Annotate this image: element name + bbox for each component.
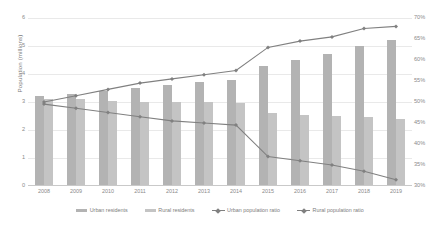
line-marker[interactable]: Urban population ratio 2011: 54.5%	[138, 81, 142, 85]
x-tick-label: 2009	[60, 189, 92, 194]
legend-item[interactable]: Urban population ratio	[212, 208, 281, 213]
y-tick-label-right: 65%	[414, 36, 436, 42]
chart-container: Population (millions) 0123456 30%35%40%4…	[0, 0, 440, 232]
x-tick-label: 2008	[28, 189, 60, 194]
x-tick-label: 2013	[188, 189, 220, 194]
y-tick-label-left: 2	[14, 127, 25, 133]
legend-item[interactable]: Rural population ratio	[297, 208, 364, 213]
x-tick-label: 2010	[92, 189, 124, 194]
line-marker[interactable]: Urban population ratio 2013: 56.5%	[202, 73, 206, 77]
line-series-group: Urban population ratio 2008: 50%Urban po…	[28, 18, 412, 186]
line-marker[interactable]: Rural population ratio 2011: 46.5%	[138, 115, 142, 119]
y-tick-label-left: 0	[14, 183, 25, 189]
line-marker[interactable]: Rural population ratio 2008: 49.5%	[42, 102, 46, 106]
legend-swatch-line-icon	[212, 208, 225, 213]
chart-legend: Urban residentsRural residentsUrban popu…	[0, 208, 440, 213]
line-urban-population-ratio	[44, 26, 396, 102]
y-tick-label-right: 45%	[414, 120, 436, 126]
line-marker[interactable]: Urban population ratio 2019: 68%	[394, 24, 398, 28]
y-tick-label-right: 70%	[414, 15, 436, 21]
x-tick-label: 2015	[252, 189, 284, 194]
line-marker[interactable]: Rural population ratio 2017: 35%	[330, 163, 334, 167]
x-axis-line	[28, 185, 412, 186]
line-marker[interactable]: Rural population ratio 2019: 31.5%	[394, 178, 398, 182]
legend-label: Rural population ratio	[313, 208, 364, 213]
y-tick-label-right: 40%	[414, 141, 436, 147]
line-marker[interactable]: Urban population ratio 2012: 55.5%	[170, 77, 174, 81]
line-marker[interactable]: Rural population ratio 2018: 33.5%	[362, 169, 366, 173]
y-tick-label-left: 1	[14, 155, 25, 161]
x-tick-label: 2019	[380, 189, 412, 194]
x-tick-label: 2014	[220, 189, 252, 194]
line-marker[interactable]: Rural population ratio 2010: 47.5%	[106, 111, 110, 115]
x-tick-label: 2012	[156, 189, 188, 194]
plot-area: 0123456 30%35%40%45%50%55%60%65%70% Urba…	[28, 18, 412, 186]
x-tick-label: 2016	[284, 189, 316, 194]
y-tick-label-right: 30%	[414, 183, 436, 189]
line-marker[interactable]: Urban population ratio 2018: 67.5%	[362, 27, 366, 31]
x-tick-label: 2018	[348, 189, 380, 194]
x-tick-label: 2011	[124, 189, 156, 194]
line-marker[interactable]: Urban population ratio 2017: 65.5%	[330, 35, 334, 39]
legend-item[interactable]: Rural residents	[145, 208, 195, 213]
y-tick-label-left: 5	[14, 43, 25, 49]
legend-item[interactable]: Urban residents	[76, 208, 128, 213]
line-marker[interactable]: Urban population ratio 2010: 53%	[106, 87, 110, 91]
line-marker[interactable]: Urban population ratio 2016: 64.5%	[298, 39, 302, 43]
y-axis-label-left: Population (millions)	[16, 19, 23, 109]
legend-label: Rural residents	[158, 208, 194, 213]
line-marker[interactable]: Rural population ratio 2012: 45.5%	[170, 119, 174, 123]
legend-label: Urban residents	[90, 208, 128, 213]
line-rural-population-ratio	[44, 104, 396, 180]
legend-swatch-bar-icon	[145, 209, 156, 213]
y-tick-label-right: 60%	[414, 57, 436, 63]
legend-label: Urban population ratio	[227, 208, 280, 213]
y-tick-label-right: 50%	[414, 99, 436, 105]
y-tick-label-right: 35%	[414, 162, 436, 168]
legend-swatch-line-icon	[297, 208, 310, 213]
line-marker[interactable]: Rural population ratio 2009: 48.5%	[74, 106, 78, 110]
y-tick-label-left: 6	[14, 15, 25, 21]
line-marker[interactable]: Rural population ratio 2016: 36%	[298, 159, 302, 163]
y-tick-label-right: 55%	[414, 78, 436, 84]
y-tick-label-left: 4	[14, 71, 25, 77]
y-tick-label-left: 3	[14, 99, 25, 105]
x-tick-label: 2017	[316, 189, 348, 194]
legend-swatch-bar-icon	[76, 209, 87, 213]
line-marker[interactable]: Urban population ratio 2009: 51.5%	[74, 94, 78, 98]
line-marker[interactable]: Rural population ratio 2013: 45%	[202, 121, 206, 125]
